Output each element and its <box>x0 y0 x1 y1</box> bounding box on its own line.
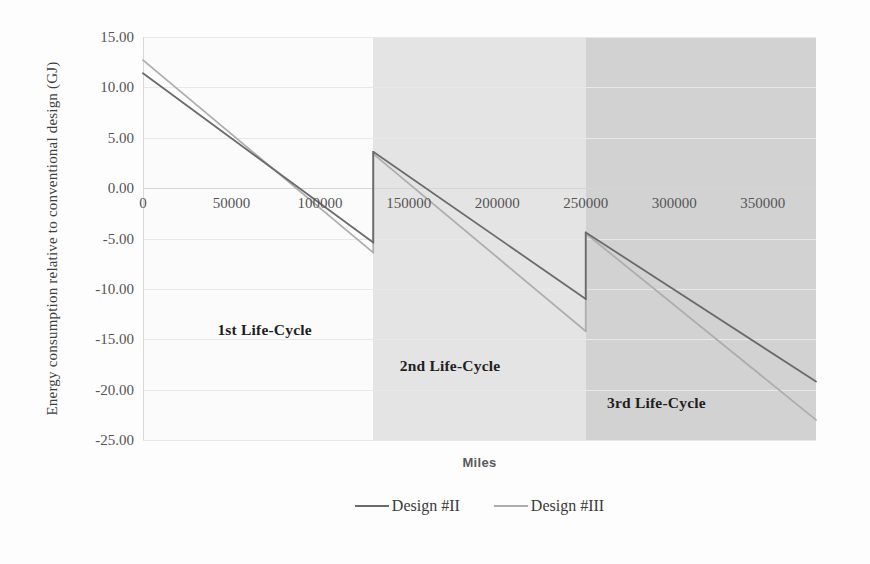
x-axis-tick-labels: 0500001000001500002000002500003000003500… <box>143 0 816 564</box>
legend-label: Design #II <box>392 497 460 515</box>
x-axis-tick-label: 250000 <box>563 195 608 212</box>
legend-line-icon <box>494 505 528 507</box>
x-axis-title: Miles <box>143 455 816 470</box>
y-axis-tick-label: 15.00 <box>60 29 134 46</box>
y-axis-tick-label: 5.00 <box>60 129 134 146</box>
y-axis-tick-label: -25.00 <box>60 432 134 449</box>
chart-legend: Design #IIDesign #III <box>143 497 816 515</box>
y-axis-tick-labels: 15.0010.005.000.00-5.00-10.00-15.00-20.0… <box>48 0 134 564</box>
x-axis-tick-label: 350000 <box>740 195 785 212</box>
legend-line-icon <box>355 505 389 507</box>
x-axis-tick-label: 50000 <box>213 195 251 212</box>
y-axis-tick-label: -15.00 <box>60 331 134 348</box>
legend-item-1[interactable]: Design #II <box>355 497 460 515</box>
x-axis-tick-label: 150000 <box>386 195 431 212</box>
y-axis-tick-label: -5.00 <box>60 230 134 247</box>
y-axis-tick-label: -10.00 <box>60 280 134 297</box>
x-axis-tick-label: 0 <box>139 195 147 212</box>
y-axis-tick-label: 0.00 <box>60 180 134 197</box>
x-axis-tick-label: 300000 <box>652 195 697 212</box>
y-axis-tick-label: 10.00 <box>60 79 134 96</box>
x-axis-tick-label: 100000 <box>298 195 343 212</box>
chart-figure: Energy consumption relative to conventio… <box>0 0 870 564</box>
x-axis-tick-label: 200000 <box>475 195 520 212</box>
y-axis-tick-label: -20.00 <box>60 381 134 398</box>
legend-label: Design #III <box>531 497 604 515</box>
legend-item-2[interactable]: Design #III <box>494 497 604 515</box>
